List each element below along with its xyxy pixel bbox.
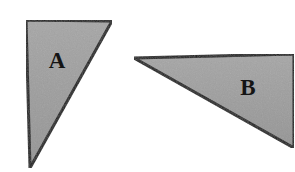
triangle-a-label: A xyxy=(49,48,66,73)
triangle-b-label: B xyxy=(240,75,255,100)
geometry-figure: A B xyxy=(0,0,295,172)
diagram-canvas: A B xyxy=(0,0,295,172)
